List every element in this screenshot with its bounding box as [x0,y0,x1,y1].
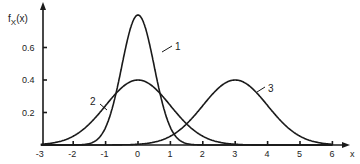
curve-1 [41,15,333,145]
x-tick-label: 6 [329,149,334,159]
x-tick-label: 1 [167,149,172,159]
x-tick-label: 5 [297,149,302,159]
y-axis-arrow-icon [40,2,46,10]
y-axis-label: fX(x) [8,13,28,27]
x-axis-label: x [350,149,355,159]
curves [41,15,333,145]
series-label-1: 1 [175,41,181,52]
series-label-2: 2 [90,96,96,107]
series-labels: 123 [90,41,274,110]
leader-line [162,46,172,52]
y-axis [40,2,46,145]
x-axis-arrow-icon [342,142,350,148]
curve-3 [41,80,333,145]
y-tick-label: 0.4 [22,75,35,85]
x-tick-label: 3 [232,149,237,159]
x-tick-label: 0 [135,149,140,159]
y-tick-label: 0.2 [22,108,35,118]
x-tick-label: -1 [101,149,109,159]
leader-line [257,87,265,92]
x-tick-label: -3 [36,149,44,159]
x-tick-label: 4 [265,149,270,159]
series-label-3: 3 [268,83,274,94]
chart: fX(x) x 0.20.40.6 -3-2-10123456 123 [0,0,360,164]
y-tick-label: 0.6 [22,43,35,53]
curve-2 [41,80,333,145]
x-tick-label: -2 [68,149,76,159]
x-tick-label: 2 [200,149,205,159]
